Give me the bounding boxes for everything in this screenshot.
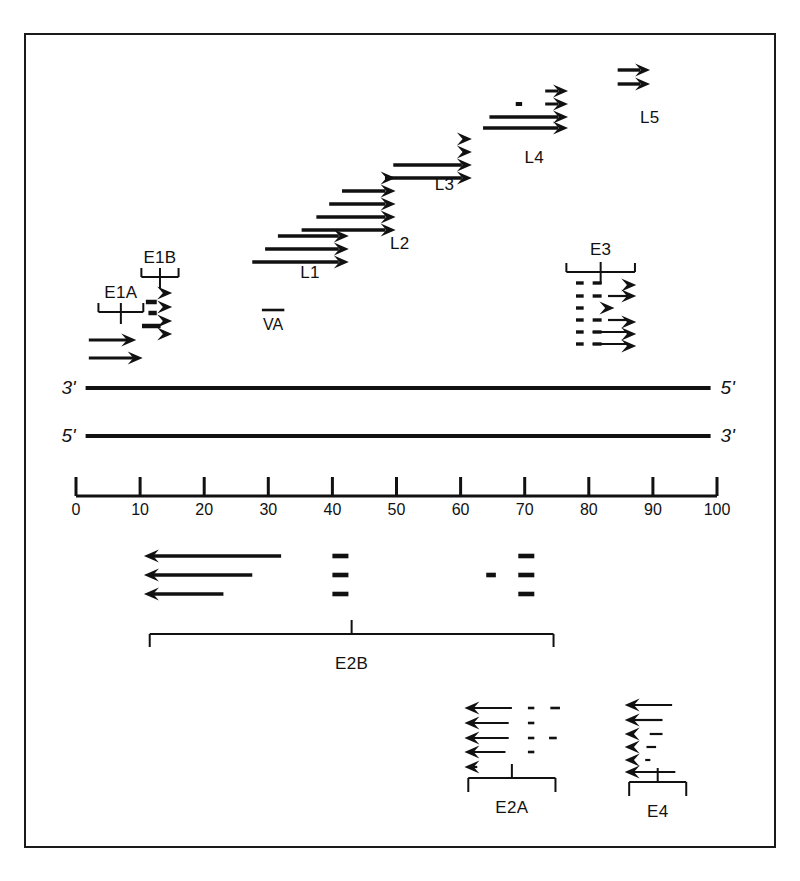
scale-tick-label-20: 20: [195, 501, 213, 519]
arrowhead-L3-1: [457, 146, 472, 159]
scale-tick-label-40: 40: [323, 501, 341, 519]
scale-tick-label-0: 0: [72, 501, 81, 519]
bracket-E2A: [468, 764, 555, 792]
label-E2A: E2A: [495, 798, 528, 818]
label-L3: L3: [435, 175, 455, 195]
scale-tick-label-100: 100: [704, 501, 731, 519]
label-E1A: E1A: [104, 283, 137, 303]
scale-tick-label-50: 50: [388, 501, 406, 519]
strand-bottom-left-label: 5': [61, 425, 75, 447]
label-L2: L2: [390, 234, 410, 254]
strand-top-right-label: 5': [721, 377, 735, 399]
figure-artwork: [0, 0, 800, 881]
transcript-E1A-1: [89, 352, 143, 365]
arrowhead-E3-5: [621, 340, 636, 353]
label-VA: VA: [263, 316, 283, 334]
scale-tick-label-90: 90: [644, 501, 662, 519]
arrowhead-E4-2: [625, 728, 640, 741]
label-E2B: E2B: [335, 654, 368, 674]
label-E3: E3: [590, 240, 611, 260]
arrowhead-E4-3: [625, 741, 640, 754]
arrowhead-E3-2: [599, 302, 614, 315]
arrowhead-E3-3: [621, 316, 636, 329]
arrowhead-E3-0: [621, 279, 636, 292]
strand-bottom-right-label: 3': [721, 425, 735, 447]
label-E1B: E1B: [143, 248, 176, 268]
arrowhead-E4-4: [625, 754, 640, 767]
arrowhead-E3-4: [621, 328, 636, 341]
bracket-E2B: [150, 620, 554, 647]
scale-tick-label-30: 30: [259, 501, 277, 519]
figure-canvas: E1AE1BVAL1L2L3L4L5E33'5'5'3'010203040506…: [0, 0, 800, 881]
arrowhead-E1B-3: [157, 328, 172, 341]
transcript-E1A-0: [89, 334, 136, 347]
scale-tick-label-10: 10: [131, 501, 149, 519]
label-L1: L1: [300, 263, 320, 283]
label-L4: L4: [525, 148, 545, 168]
label-L5: L5: [640, 108, 660, 128]
scale-tick-label-70: 70: [516, 501, 534, 519]
arrowhead-L3-0: [457, 133, 472, 146]
arrowhead-E1B-1: [157, 301, 172, 314]
strand-top-left-label: 3': [61, 377, 75, 399]
scale-tick-label-80: 80: [580, 501, 598, 519]
scale-tick-label-60: 60: [452, 501, 470, 519]
label-E4: E4: [647, 802, 668, 822]
